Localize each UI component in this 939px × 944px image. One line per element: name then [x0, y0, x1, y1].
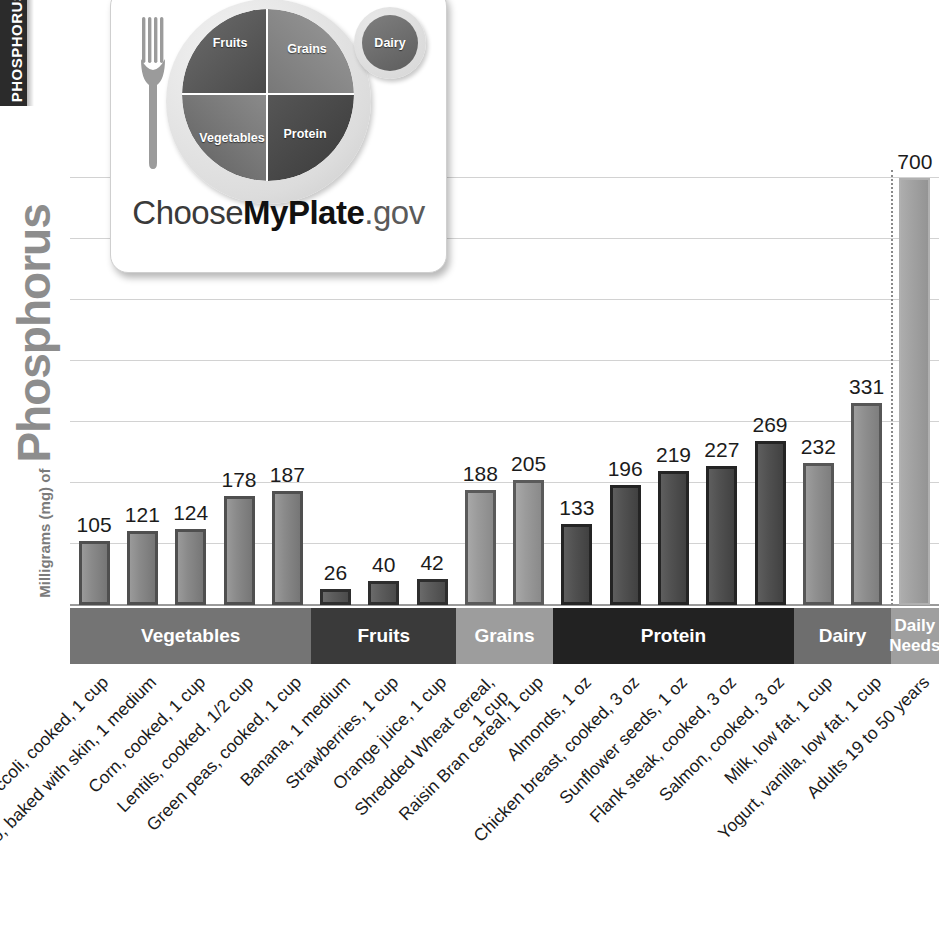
plate-section-vegetables-label: Vegetables — [199, 131, 264, 145]
fork-icon — [140, 17, 168, 169]
category-band-label: Dairy — [819, 626, 867, 646]
plate-section-dairy: Dairy — [362, 15, 418, 71]
bar[interactable]: 42 — [417, 579, 448, 605]
myplate-wordmark-part3: .gov — [364, 194, 424, 231]
bar-value-label: 105 — [77, 513, 112, 537]
bar[interactable]: 105 — [79, 541, 110, 605]
plate-section-grains-label: Grains — [287, 42, 327, 56]
category-band-protein[interactable]: Protein — [553, 608, 794, 664]
bar-fill — [127, 531, 158, 605]
bar-value-label: 40 — [372, 553, 395, 577]
y-axis-title: Milligrams (mg) of Phosphorus — [11, 121, 73, 681]
plate-section-dairy-label: Dairy — [374, 36, 405, 50]
bar[interactable]: 196 — [610, 485, 641, 605]
bar-fill — [79, 541, 110, 605]
bar[interactable]: 219 — [658, 471, 689, 605]
plate-sections: Fruits Grains Vegetables Protein — [182, 9, 354, 181]
bar-value-label: 232 — [801, 435, 836, 459]
myplate-wordmark-part1: Choose — [132, 194, 243, 231]
x-axis-label-row: Broccoli, cooked, 1 cupPotato, baked wit… — [0, 664, 939, 944]
bar-value-label: 331 — [849, 375, 884, 399]
bar-value-label: 133 — [559, 496, 594, 520]
bar-fill — [899, 178, 930, 606]
bar-value-label: 269 — [752, 413, 787, 437]
bar-value-label: 227 — [704, 438, 739, 462]
bar-fill — [561, 524, 592, 605]
y-axis-title-nutrient: Phosphorus — [11, 204, 57, 462]
bar[interactable]: 40 — [368, 581, 399, 605]
bar[interactable]: 178 — [224, 496, 255, 605]
bar-fill — [417, 579, 448, 605]
bar-value-label: 26 — [324, 561, 347, 585]
bar-fill — [465, 490, 496, 605]
category-band-label: DailyNeeds — [889, 616, 939, 656]
category-band-veg[interactable]: Vegetables — [70, 608, 311, 664]
bar[interactable]: 121 — [127, 531, 158, 605]
bar-fill — [513, 480, 544, 605]
bar[interactable]: 232 — [803, 463, 834, 605]
bar[interactable]: 188 — [465, 490, 496, 605]
plate-dairy-cup: Dairy — [354, 7, 426, 79]
bar-value-label: 700 — [897, 150, 932, 174]
bar-value-label: 219 — [656, 443, 691, 467]
category-band-label: Fruits — [357, 626, 410, 646]
bar-fill — [851, 403, 882, 605]
category-band-fruits[interactable]: Fruits — [311, 608, 456, 664]
category-band-needs[interactable]: DailyNeeds — [891, 608, 939, 664]
plate-section-grains: Grains — [268, 9, 354, 95]
bar-fill — [610, 485, 641, 605]
bar-value-label: 188 — [463, 462, 498, 486]
plate-section-vegetables: Vegetables — [182, 95, 268, 181]
bar-value-label: 124 — [173, 501, 208, 525]
bar-value-label: 42 — [420, 551, 443, 575]
category-band-label: Grains — [474, 626, 534, 646]
myplate-wordmark: ChooseMyPlate.gov — [111, 194, 446, 232]
myplate-wordmark-part2: MyPlate — [243, 194, 364, 231]
bar[interactable]: 331 — [851, 403, 882, 605]
category-band-label: Protein — [641, 626, 706, 646]
bar-value-label: 187 — [270, 463, 305, 487]
tab-shadow — [27, 0, 34, 106]
bar-value-label: 205 — [511, 452, 546, 476]
plate-section-fruits: Fruits — [182, 9, 268, 95]
bar-fill — [368, 581, 399, 605]
bar-value-label: 196 — [608, 457, 643, 481]
plate-section-protein-label: Protein — [283, 127, 326, 141]
category-band-grains[interactable]: Grains — [456, 608, 553, 664]
plate-graphic: Fruits Grains Vegetables Protein — [166, 0, 371, 204]
category-band-dairy[interactable]: Dairy — [794, 608, 891, 664]
bar-fill — [706, 466, 737, 605]
bar[interactable]: 227 — [706, 466, 737, 605]
nutrient-tab-label: PHOSPHORUS — [8, 0, 25, 107]
bar-fill — [320, 589, 351, 605]
bar[interactable]: 700 — [899, 178, 930, 606]
bar[interactable]: 187 — [272, 491, 303, 605]
bar-value-label: 121 — [125, 503, 160, 527]
bar-fill — [175, 529, 206, 605]
y-axis-title-units: Milligrams (mg) of — [36, 469, 53, 598]
category-band-label: Vegetables — [141, 626, 240, 646]
plate-section-protein: Protein — [268, 95, 354, 181]
myplate-logo-card: Fruits Grains Vegetables Protein Dairy C… — [110, 0, 447, 273]
plate-section-fruits-label: Fruits — [213, 36, 248, 50]
bar[interactable]: 205 — [513, 480, 544, 605]
category-band-row: VegetablesFruitsGrainsProteinDairyDailyN… — [70, 608, 939, 664]
bar[interactable]: 269 — [755, 441, 786, 605]
nutrient-tab[interactable]: PHOSPHORUS — [0, 0, 27, 106]
bar[interactable]: 124 — [175, 529, 206, 605]
bar-fill — [272, 491, 303, 605]
bar-fill — [224, 496, 255, 605]
bar-fill — [755, 441, 786, 605]
bar[interactable]: 133 — [561, 524, 592, 605]
chart-page: PHOSPHORUS Milligrams (mg) of Phosphorus… — [0, 0, 939, 944]
bar-fill — [658, 471, 689, 605]
bar-fill — [803, 463, 834, 605]
bar-value-label: 178 — [221, 468, 256, 492]
bar[interactable]: 26 — [320, 589, 351, 605]
